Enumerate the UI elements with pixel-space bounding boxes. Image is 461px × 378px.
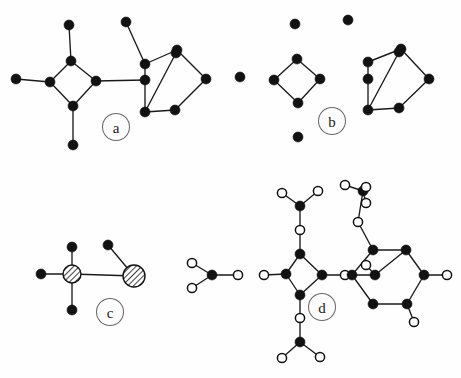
node-filled	[295, 337, 305, 347]
panel-label-text-a: a	[113, 120, 120, 136]
node-filled	[293, 132, 303, 142]
node-open	[187, 258, 196, 267]
node-filled	[401, 245, 411, 255]
node-filled	[295, 290, 305, 300]
node-filled	[363, 105, 373, 115]
node-filled	[67, 305, 77, 315]
node-filled	[281, 269, 291, 279]
node-filled	[394, 103, 404, 113]
node-filled	[103, 240, 113, 250]
edge	[401, 49, 429, 79]
node-open	[315, 352, 324, 361]
edge	[126, 22, 145, 64]
panel-d-nodes	[187, 180, 451, 362]
node-open	[259, 270, 268, 279]
edge	[69, 25, 71, 61]
node-open	[361, 182, 370, 191]
node-filled	[347, 270, 357, 280]
figure-container: abcd	[0, 0, 461, 378]
edges-layer	[16, 22, 447, 358]
node-open	[233, 270, 242, 279]
node-filled	[66, 56, 76, 66]
panel-label-d: d	[309, 294, 336, 321]
node-open	[313, 186, 322, 195]
node-open	[442, 270, 451, 279]
panel-label-text-b: b	[328, 114, 336, 130]
node-open	[277, 188, 286, 197]
node-filled	[368, 299, 378, 309]
panel-label-c: c	[97, 299, 124, 326]
node-filled	[201, 74, 211, 84]
node-filled	[394, 47, 404, 57]
four-panel-graph-figure: abcd	[0, 0, 461, 378]
node-filled	[45, 77, 55, 87]
node-open	[340, 180, 349, 189]
node-filled	[424, 74, 434, 84]
node-filled	[36, 269, 46, 279]
node-filled	[402, 299, 412, 309]
panel-label-a: a	[103, 114, 130, 141]
edge	[175, 79, 206, 110]
node-filled	[235, 72, 245, 82]
node-filled	[67, 242, 77, 252]
node-filled	[315, 74, 325, 84]
node-filled	[370, 270, 380, 280]
node-filled	[293, 98, 303, 108]
node-filled	[343, 15, 353, 25]
panel-label-b: b	[319, 108, 346, 135]
node-filled	[269, 75, 279, 85]
node-open	[409, 317, 418, 326]
node-filled	[140, 75, 150, 85]
node-open	[277, 353, 286, 362]
node-filled	[363, 57, 373, 67]
node-open	[295, 225, 304, 234]
panel-c-nodes	[36, 240, 145, 315]
node-filled	[68, 140, 78, 150]
nodes-layer	[11, 15, 452, 363]
node-filled	[68, 101, 78, 111]
node-filled	[368, 245, 378, 255]
node-filled	[290, 19, 300, 29]
node-filled	[91, 76, 101, 86]
node-filled	[207, 270, 217, 280]
node-open	[295, 313, 304, 322]
node-hatched	[123, 265, 145, 287]
node-filled	[171, 48, 181, 58]
node-filled	[419, 270, 429, 280]
edge	[177, 50, 206, 79]
node-filled	[140, 59, 150, 69]
node-filled	[292, 54, 302, 64]
edge	[399, 79, 429, 108]
node-open	[361, 198, 370, 207]
node-open	[187, 283, 196, 292]
edge	[375, 250, 406, 275]
node-filled	[140, 107, 150, 117]
panel-c-edges	[41, 245, 134, 310]
node-filled	[363, 74, 373, 84]
panel-label-text-d: d	[318, 300, 326, 316]
node-filled	[295, 249, 305, 259]
node-open	[361, 260, 370, 269]
panel-labels-layer: abcd	[97, 108, 346, 326]
node-filled	[170, 105, 180, 115]
panel-label-text-c: c	[107, 305, 114, 321]
node-hatched	[63, 265, 81, 283]
node-filled	[121, 17, 131, 27]
edge	[96, 80, 145, 81]
node-open	[353, 217, 362, 226]
edge	[352, 275, 373, 304]
node-filled	[317, 270, 327, 280]
node-filled	[295, 201, 305, 211]
node-filled	[64, 20, 74, 30]
node-filled	[11, 74, 21, 84]
